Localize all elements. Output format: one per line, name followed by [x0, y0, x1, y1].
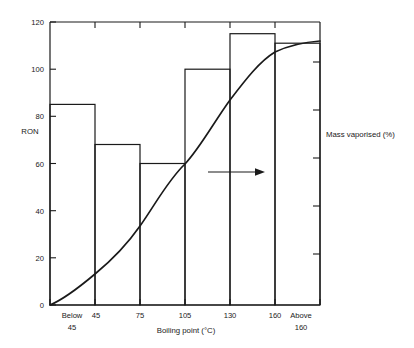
ytick-label-20: 20 [36, 254, 44, 263]
bar-130-160 [230, 34, 275, 305]
bar-160-above [275, 43, 320, 305]
x-axis-title: Boiling point (°C) [157, 326, 216, 335]
xtick-label-below45-line2: 45 [68, 323, 76, 332]
xtick-label-105: 105 [179, 311, 192, 320]
bar-45-75 [95, 145, 140, 306]
xtick-label-below45-line1: Below [62, 311, 83, 320]
top-axis-ticks [95, 22, 275, 28]
ytick-label-0: 0 [40, 301, 44, 310]
chart-figure: 120 100 80 60 40 20 0 RON Mass vaporised… [0, 0, 414, 348]
bar-below45-45 [50, 104, 95, 305]
axis-pointer-arrow [208, 168, 265, 176]
xtick-label-45: 45 [92, 311, 100, 320]
ytick-label-40: 40 [36, 207, 44, 216]
chart-svg: 120 100 80 60 40 20 0 RON Mass vaporised… [0, 0, 414, 348]
xtick-label-75: 75 [136, 311, 144, 320]
xtick-label-130: 130 [224, 311, 237, 320]
ytick-label-100: 100 [31, 65, 44, 74]
xtick-label-above160-line1: Above [290, 311, 312, 320]
y-axis-title: RON [21, 127, 38, 136]
arrow-head [255, 168, 265, 176]
bar-75-105 [140, 164, 185, 306]
ytick-label-120: 120 [31, 18, 44, 27]
left-tick-labels: 120 100 80 60 40 20 0 [31, 18, 44, 310]
xtick-label-above160-line2: 160 [295, 323, 308, 332]
y2-axis-title: Mass vaporised (%) [326, 130, 395, 139]
xtick-label-160: 160 [269, 311, 282, 320]
ytick-label-80: 80 [36, 112, 44, 121]
bar-series [50, 34, 320, 305]
bar-105-130 [185, 69, 230, 305]
left-axis-ticks [50, 22, 56, 305]
right-axis-ticks [313, 62, 320, 254]
ytick-label-60: 60 [36, 160, 44, 169]
